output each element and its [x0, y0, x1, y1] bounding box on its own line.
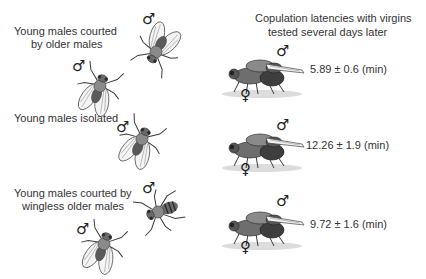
condition-3-latency: 9.72 ± 1.6 (min) [310, 218, 387, 231]
male-symbol-icon: ♂ [142, 181, 155, 196]
condition-2-label-line1: Young males isolated [14, 112, 118, 125]
male-symbol-icon: ♂ [76, 222, 89, 237]
header-title-line2: tested several days later [268, 26, 387, 39]
male-symbol-icon: ♂ [116, 120, 129, 135]
male-symbol-icon: ♂ [276, 194, 289, 209]
male-symbol-icon: ♂ [276, 118, 289, 133]
female-symbol-icon: ♀ [240, 240, 251, 255]
fly-mating-pair-3 [218, 202, 308, 252]
fly-mating-pair-2 [218, 124, 308, 174]
male-symbol-icon: ♂ [72, 59, 85, 74]
condition-1-label-line1: Young males courted [14, 25, 117, 38]
condition-2-latency: 12.26 ± 1.9 (min) [306, 139, 389, 152]
male-symbol-icon: ♂ [142, 12, 155, 27]
male-symbol-icon: ♂ [276, 44, 289, 59]
fly-older-male-1 [124, 16, 194, 96]
fly-young-male-2 [112, 105, 172, 175]
fly-wingless-older-male [124, 178, 194, 248]
header-title-line1: Copulation latencies with virgins [255, 12, 412, 25]
fly-mating-pair-1 [218, 50, 308, 100]
condition-3-label-line1: Young males courted by [14, 187, 132, 200]
condition-1-latency: 5.89 ± 0.6 (min) [310, 63, 387, 76]
female-symbol-icon: ♀ [240, 88, 251, 103]
female-symbol-icon: ♀ [240, 162, 251, 177]
